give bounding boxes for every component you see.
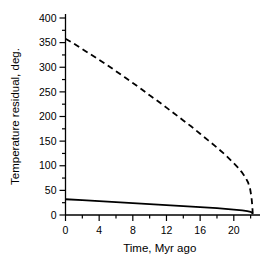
- y-axis-tick-label: 0: [51, 209, 57, 221]
- y-axis-tick-label: 50: [45, 184, 57, 196]
- x-axis-tick-label: 8: [130, 224, 136, 236]
- y-axis-tick-label: 100: [39, 159, 57, 171]
- y-axis-tick-label: 400: [39, 12, 57, 24]
- y-axis-tick-label: 350: [39, 36, 57, 48]
- x-axis-tick-label: 0: [63, 224, 69, 236]
- y-axis-tick-label: 150: [39, 135, 57, 147]
- x-axis-tick-label: 16: [194, 224, 206, 236]
- y-axis-label: Temperature residual, deg.: [9, 48, 21, 185]
- chart-figure: 050100150200250300350400 048121620 Tempe…: [0, 0, 267, 267]
- y-axis-tick-label: 200: [39, 110, 57, 122]
- x-axis-tick-label: 20: [228, 224, 240, 236]
- x-axis-tick-label: 12: [161, 224, 173, 236]
- temperature-residual-line-chart: 050100150200250300350400 048121620 Tempe…: [0, 0, 267, 267]
- y-axis-tick-label: 300: [39, 61, 57, 73]
- x-axis-tick-label: 4: [96, 224, 102, 236]
- y-axis-tick-label: 250: [39, 86, 57, 98]
- x-axis-label: Time, Myr ago: [123, 242, 196, 254]
